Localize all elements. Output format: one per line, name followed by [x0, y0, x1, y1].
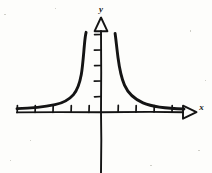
- y-axis-ticks: [94, 35, 101, 97]
- axes-group: [17, 31, 183, 173]
- y-axis-arrowhead-icon: [95, 18, 108, 32]
- y-axis-label: y: [98, 4, 104, 14]
- figure-canvas: y x: [0, 0, 212, 173]
- x-axis-label: x: [198, 102, 204, 112]
- curve-left-branch: [17, 32, 86, 108]
- curve-right-branch: [115, 34, 184, 110]
- x-axis-line: [17, 112, 183, 113]
- graph-svg: y x: [0, 0, 212, 173]
- x-axis-arrowhead-icon: [183, 106, 197, 119]
